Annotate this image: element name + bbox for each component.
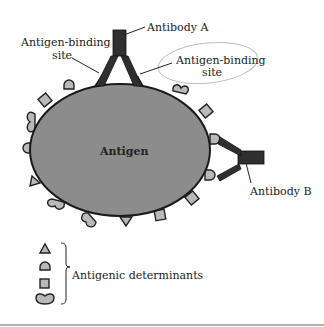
legend-square-icon [40, 279, 49, 288]
legend-dome-icon [40, 262, 50, 270]
determinant-heart [173, 85, 188, 94]
antibody-a-leader [124, 27, 145, 35]
binding-site-right-label-line2: site [202, 66, 222, 79]
antibody-b [217, 137, 264, 181]
determinant-triangle [120, 217, 132, 226]
legend: Antigenic determinants [36, 243, 204, 304]
binding-site-left-label-line1: Antigen-binding [20, 36, 111, 49]
determinant-square [199, 104, 213, 118]
determinant-heart [82, 213, 96, 227]
antibody-b-leader [246, 163, 251, 183]
determinant-dome [205, 170, 215, 180]
binding-site-left-label-line2: site [52, 49, 72, 62]
antigen-label: Antigen [99, 145, 148, 158]
legend-label: Antigenic determinants [71, 269, 204, 282]
binding-site-right-leader [140, 63, 172, 74]
determinant-dome [64, 80, 74, 89]
binding-site-left-leader [72, 58, 99, 73]
determinant-square [38, 93, 52, 107]
legend-triangle-icon [40, 244, 50, 253]
antibody-a-label: Antibody A [146, 21, 209, 34]
antibody-b-label: Antibody B [249, 185, 311, 198]
antigen-antibody-diagram: Antigen Antibody A Antigen-binding site … [0, 0, 324, 327]
legend-heart-icon [36, 294, 54, 304]
legend-bracket [61, 243, 70, 304]
